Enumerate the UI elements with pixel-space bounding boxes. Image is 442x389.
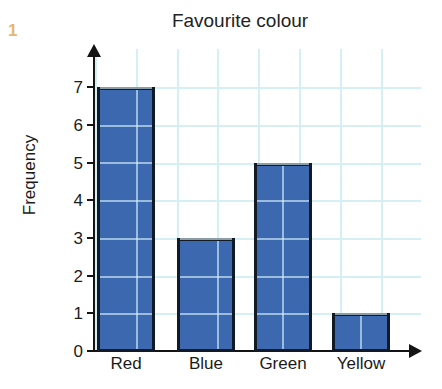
- gridline-vertical: [282, 166, 284, 350]
- x-axis-arrow-icon: [409, 344, 422, 358]
- y-axis-tick-label: 1: [55, 305, 83, 322]
- y-axis-line: [93, 55, 95, 352]
- gridline-horizontal: [100, 87, 152, 89]
- bar: [97, 87, 155, 352]
- y-axis-tick: [87, 237, 95, 239]
- y-axis-tick-label: 6: [55, 117, 83, 134]
- gridline-vertical: [360, 316, 362, 349]
- bar-chart: 01234567 Frequency RedBlueGreenYellow: [0, 0, 442, 389]
- gridline-horizontal: [180, 313, 232, 315]
- gridline-horizontal: [257, 163, 309, 165]
- y-axis-tick: [87, 86, 95, 88]
- x-axis-tick-label: Blue: [163, 355, 249, 372]
- gridline-horizontal: [180, 276, 232, 278]
- gridline-horizontal: [100, 238, 152, 240]
- gridline-horizontal: [100, 313, 152, 315]
- y-axis-tick: [87, 124, 95, 126]
- gridline-horizontal: [100, 162, 152, 164]
- y-axis-tick-label: 2: [55, 268, 83, 285]
- y-axis-tick: [87, 199, 95, 201]
- y-axis-tick: [87, 312, 95, 314]
- worksheet-page: 1 Favourite colour 01234567 Frequency Re…: [0, 0, 442, 389]
- bar: [177, 238, 235, 352]
- y-axis-tick-label: 5: [55, 155, 83, 172]
- y-axis-label: Frequency: [20, 100, 40, 250]
- gridline-horizontal: [100, 125, 152, 127]
- gridline-horizontal: [100, 276, 152, 278]
- y-axis-tick: [87, 162, 95, 164]
- x-axis-tick-label: Red: [83, 355, 169, 372]
- gridline-horizontal: [180, 238, 232, 240]
- bar: [254, 163, 312, 353]
- y-axis-tick-label: 7: [55, 79, 83, 96]
- gridline-horizontal: [100, 200, 152, 202]
- y-axis-tick-label: 3: [55, 230, 83, 247]
- gridline-vertical: [340, 49, 342, 351]
- gridline-vertical: [217, 241, 219, 349]
- gridline-vertical: [381, 49, 383, 351]
- bar: [332, 313, 390, 352]
- gridline-horizontal: [335, 313, 387, 315]
- y-axis-tick: [87, 350, 95, 352]
- y-axis-arrow-icon: [87, 44, 101, 57]
- y-axis-tick-label: 0: [55, 343, 83, 360]
- gridline-vertical: [136, 90, 138, 349]
- y-axis-tick-label: 4: [55, 192, 83, 209]
- x-axis-tick-label: Green: [240, 355, 326, 372]
- y-axis-tick: [87, 275, 95, 277]
- x-axis-tick-label: Yellow: [318, 355, 404, 372]
